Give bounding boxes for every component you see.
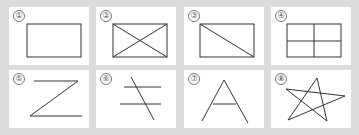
- rectangle-with-diagonals-figure: [96, 7, 176, 65]
- figure-cell-6: ⑥: [96, 70, 176, 128]
- figure-cell-2: ②: [96, 7, 176, 65]
- rectangle-figure: [9, 7, 89, 65]
- figure-cell-4: ④: [271, 7, 351, 65]
- rectangle-divided-figure: [271, 7, 351, 65]
- figure-cell-3: ③: [184, 7, 264, 65]
- figure-cell-7: ⑦: [184, 70, 264, 128]
- figure-cell-8: ⑧: [271, 70, 351, 128]
- letter-z-figure: [9, 70, 89, 128]
- star-figure: [271, 70, 351, 128]
- figure-cell-5: ⑤: [9, 70, 89, 128]
- rectangle-with-diagonal-figure: [184, 7, 264, 65]
- parallel-lines-crossed-figure: [96, 70, 176, 128]
- figure-cell-1: ①: [9, 7, 89, 65]
- letter-a-figure: [184, 70, 264, 128]
